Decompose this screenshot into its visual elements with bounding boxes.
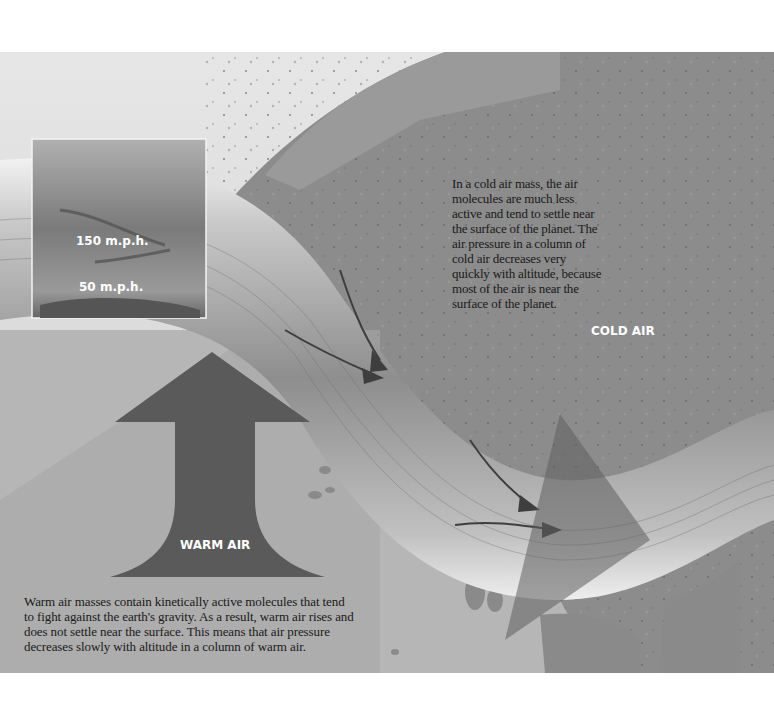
cold-air-caption: In a cold air mass, the air molecules ar… [452,176,602,311]
jet-speed-low-label: 50 m.p.h. [79,280,143,294]
jet-speed-high-label: 150 m.p.h. [76,234,149,248]
warm-air-label: WARM AIR [180,538,250,552]
warm-air-caption: Warm air masses contain kinetically acti… [24,594,354,654]
cold-air-label: COLD AIR [591,324,655,338]
